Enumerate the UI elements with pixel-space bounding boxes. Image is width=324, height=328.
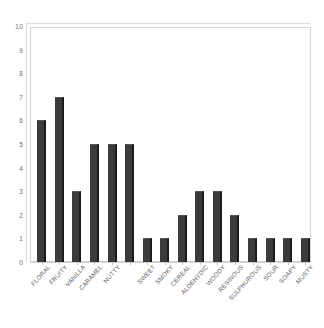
bar (143, 238, 152, 262)
y-tick-label: 6 (19, 118, 23, 125)
y-tick-label: 5 (19, 142, 23, 149)
bar (108, 144, 117, 262)
y-axis: 012345678910 (0, 0, 28, 328)
bar (160, 238, 169, 262)
y-tick-label: 7 (19, 95, 23, 102)
bar (72, 191, 81, 262)
y-tick-label: 9 (19, 47, 23, 54)
x-tick-label: FLORAL (30, 264, 52, 287)
bar (213, 191, 222, 262)
x-tick-label: NUTTY (103, 264, 122, 284)
y-tick-label: 2 (19, 213, 23, 220)
y-tick-label: 0 (19, 260, 23, 267)
y-tick-label: 3 (19, 189, 23, 196)
x-tick-label: MUSTY (295, 264, 315, 285)
plot-area (30, 27, 311, 263)
bars-container (31, 28, 310, 262)
y-tick-label: 1 (19, 236, 23, 243)
bar (55, 97, 64, 262)
bar-chart: 012345678910 FLORALFRUITYVANILLACARAMELN… (0, 0, 324, 328)
bar (266, 238, 275, 262)
bar (301, 238, 310, 262)
y-tick-label: 4 (19, 165, 23, 172)
bar (178, 215, 187, 262)
bar (195, 191, 204, 262)
x-tick-label: SOAPY (278, 264, 298, 285)
bar (125, 144, 134, 262)
bar (37, 120, 46, 262)
bar (90, 144, 99, 262)
x-axis: FLORALFRUITYVANILLACARAMELNUTTYSWEETSMOK… (30, 264, 311, 328)
bar (230, 215, 239, 262)
bar (248, 238, 257, 262)
x-tick-label: SWEET (137, 264, 157, 285)
y-tick-label: 8 (19, 71, 23, 78)
y-tick-label: 10 (15, 24, 23, 31)
bar (283, 238, 292, 262)
